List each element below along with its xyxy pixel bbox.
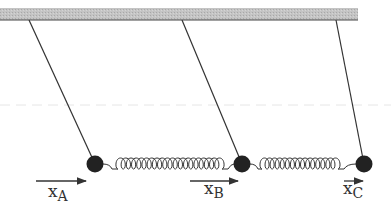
string-a	[29, 20, 95, 164]
mass-a	[87, 156, 104, 173]
ceiling-support	[0, 8, 358, 20]
spring-ab	[103, 158, 234, 169]
mass-b	[234, 156, 251, 173]
label-xa: xA	[48, 181, 69, 204]
pendulum-strings	[29, 20, 364, 164]
spring-bc	[250, 158, 356, 169]
string-c	[336, 20, 364, 164]
string-b	[182, 20, 242, 164]
coupled-pendulum-diagram: xA xB xC	[0, 0, 391, 213]
mass-c	[356, 156, 373, 173]
